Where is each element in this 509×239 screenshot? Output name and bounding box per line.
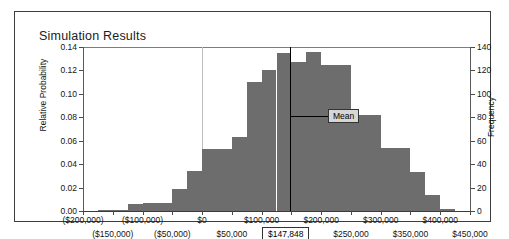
y-left-tick <box>79 47 83 48</box>
y-left-tick <box>79 141 83 142</box>
y-right-tick <box>471 164 475 165</box>
histogram-bar <box>113 210 128 211</box>
y-left-tick-label: 0.02 <box>39 183 77 193</box>
y-left-tick <box>79 164 83 165</box>
histogram-bar <box>247 82 262 211</box>
mean-value-badge[interactable]: $147,848 <box>262 227 309 239</box>
y-axis-left-title: Relative Probability <box>38 35 48 155</box>
histogram-bar <box>381 148 396 211</box>
mean-leader-line <box>290 116 328 117</box>
histogram-bar <box>440 209 455 211</box>
y-right-tick-label: 0 <box>477 206 507 216</box>
histogram-bar <box>291 62 306 211</box>
y-right-tick <box>471 70 475 71</box>
histogram-bar <box>172 189 187 211</box>
histogram-bar <box>306 52 321 211</box>
y-left-tick <box>79 94 83 95</box>
chart-panel: Simulation Results 0.000.020.040.060.080… <box>14 11 491 222</box>
axis-bottom-line <box>83 211 471 212</box>
y-right-tick <box>471 47 475 48</box>
y-left-tick <box>79 70 83 71</box>
y-left-tick <box>79 117 83 118</box>
page-title: Simulation Results <box>39 29 146 43</box>
x-axis-tick <box>470 211 471 215</box>
y-left-tick <box>79 188 83 189</box>
histogram-bar <box>217 149 232 211</box>
y-axis-right-title: Frequency <box>486 72 496 162</box>
mean-callout-label[interactable]: Mean <box>328 109 359 123</box>
y-right-tick-label: 20 <box>477 183 507 193</box>
histogram-bar <box>262 70 277 211</box>
histogram-bar <box>187 171 202 211</box>
histogram-bar <box>351 115 366 211</box>
histogram-bar <box>425 195 440 211</box>
x-axis-tick-label: $450,000 <box>430 229 509 239</box>
histogram-bar <box>202 149 217 211</box>
histogram-bar <box>128 204 143 211</box>
y-right-tick <box>471 94 475 95</box>
mean-vertical-line <box>290 47 291 211</box>
screenshot-root: Simulation Results 0.000.020.040.060.080… <box>0 0 509 239</box>
y-right-tick-label: 140 <box>477 42 507 52</box>
y-right-tick <box>471 211 475 212</box>
histogram-bar <box>321 65 336 211</box>
histogram-bar <box>143 203 158 211</box>
histogram-bar <box>157 203 172 211</box>
y-right-tick <box>471 117 475 118</box>
histogram-bar <box>410 172 425 211</box>
histogram-bars <box>83 47 470 211</box>
histogram-bar <box>98 210 113 211</box>
x-axis-tick-label: $400,000 <box>400 215 480 225</box>
histogram-bar <box>396 148 411 211</box>
y-right-tick <box>471 141 475 142</box>
y-left-tick-label: 0.04 <box>39 159 77 169</box>
histogram-bar <box>232 137 247 211</box>
y-right-tick <box>471 188 475 189</box>
histogram-bar <box>336 65 351 211</box>
histogram-bar <box>366 115 381 211</box>
